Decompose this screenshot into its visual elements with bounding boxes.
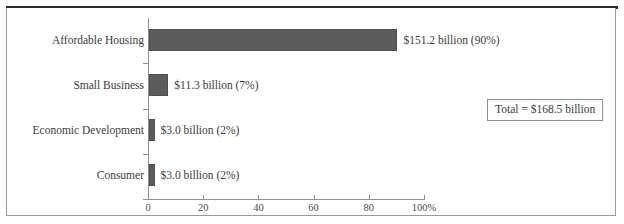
x-axis-tick-label: 40	[253, 202, 264, 213]
bar	[149, 74, 168, 96]
x-axis-tick-label: 60	[308, 202, 319, 213]
bar	[149, 29, 397, 51]
bar-value-label: $151.2 billion (90%)	[403, 33, 499, 47]
bar-value-label: $11.3 billion (7%)	[174, 78, 258, 92]
bar	[149, 119, 155, 141]
x-axis-tick-label: 80	[364, 202, 375, 213]
category-label: Consumer	[0, 168, 144, 182]
category-label: Small Business	[0, 78, 144, 92]
bar-value-label: $3.0 billion (2%)	[161, 123, 240, 137]
bar-value-label: $3.0 billion (2%)	[161, 168, 240, 182]
y-axis-tick	[143, 154, 148, 155]
x-axis-tick-label: 20	[198, 202, 209, 213]
y-axis-tick	[143, 109, 148, 110]
category-label: Economic Development	[0, 123, 144, 137]
y-axis-tick	[143, 199, 148, 200]
category-label: Affordable Housing	[0, 33, 144, 47]
x-axis-tick-label: 0	[145, 202, 150, 213]
x-axis-tick	[424, 195, 425, 200]
bar	[149, 164, 155, 186]
y-axis-tick	[143, 63, 148, 64]
x-axis-tick	[148, 195, 149, 200]
total-callout: Total = $168.5 billion	[487, 99, 603, 121]
x-axis-tick	[203, 195, 204, 200]
x-axis-line	[148, 199, 425, 200]
x-axis-tick-label: 100%	[412, 202, 437, 213]
x-axis-tick	[369, 195, 370, 200]
x-axis-tick	[258, 195, 259, 200]
x-axis-tick	[314, 195, 315, 200]
figure-root: 020406080100%Affordable Housing$151.2 bi…	[0, 0, 624, 224]
